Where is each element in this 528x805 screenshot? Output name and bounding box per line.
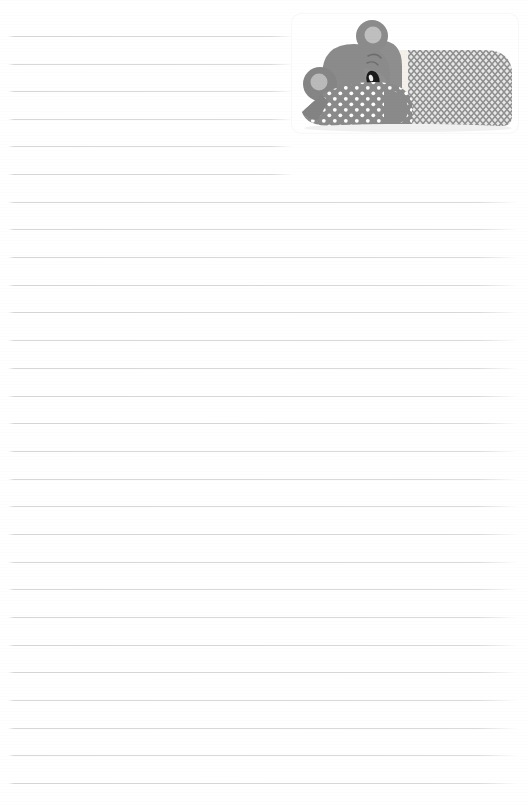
ruled-line: [8, 562, 518, 563]
ruled-line: [8, 534, 518, 535]
illustration-shadow: [304, 124, 512, 132]
ruled-line: [8, 229, 518, 230]
ruled-line: [8, 645, 518, 646]
ruled-line: [8, 368, 518, 369]
ruled-line: [8, 700, 518, 701]
notepad-page: [0, 0, 528, 805]
ruled-line: [8, 285, 518, 286]
ruled-line: [8, 617, 518, 618]
ruled-line: [8, 202, 518, 203]
ruled-line: [8, 91, 293, 92]
ruled-line: [8, 396, 518, 397]
ruled-line: [8, 119, 293, 120]
ruled-line: [8, 506, 518, 507]
ruled-line: [8, 451, 518, 452]
koala-left-ear-inner: [311, 74, 328, 91]
ruled-line: [8, 755, 518, 756]
ruled-line: [8, 783, 518, 784]
ruled-line: [8, 312, 518, 313]
ruled-line: [8, 174, 293, 175]
ruled-line: [8, 728, 518, 729]
ruled-line: [8, 64, 293, 65]
chevron-blanket: [395, 50, 512, 126]
ruled-line: [8, 423, 518, 424]
ruled-line: [8, 672, 518, 673]
ruled-line: [8, 146, 293, 147]
ruled-line: [8, 340, 518, 341]
ruled-line: [8, 257, 518, 258]
sleeping-koala-illustration: [288, 8, 524, 138]
ruled-line: [8, 589, 518, 590]
ruled-line: [8, 36, 293, 37]
koala-top-ear-inner: [365, 27, 382, 44]
ruled-line: [8, 479, 518, 480]
